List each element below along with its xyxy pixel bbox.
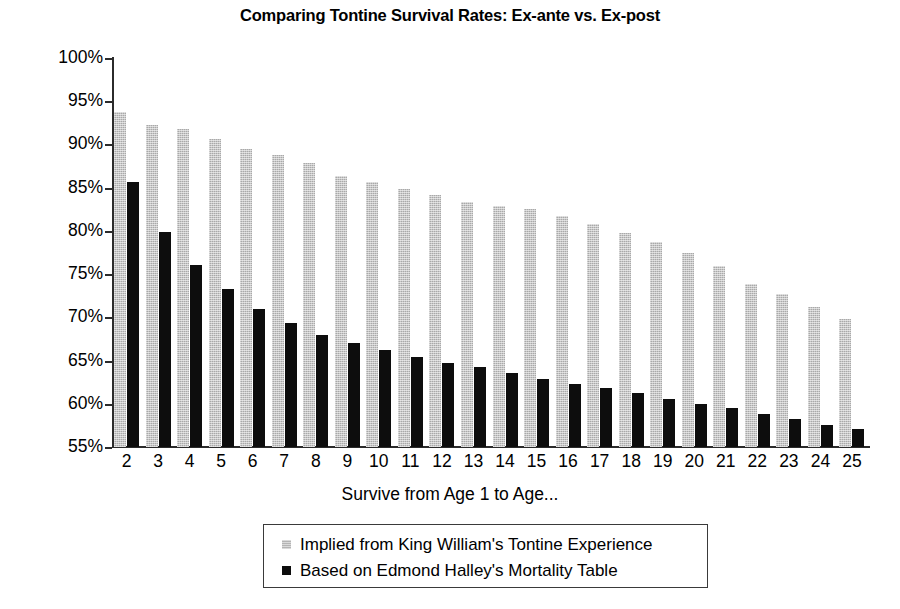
x-axis-tick-label: 17 <box>585 452 615 471</box>
bar-ex-post[interactable] <box>127 182 139 447</box>
y-axis-tick-mark <box>105 317 112 319</box>
bar-ex-post[interactable] <box>379 350 391 447</box>
bar-ex-post[interactable] <box>316 335 328 447</box>
x-axis-tick-label: 11 <box>395 452 425 471</box>
bar-ex-post[interactable] <box>789 419 801 447</box>
legend-item[interactable]: Based on Edmond Halley's Mortality Table <box>282 558 707 582</box>
bar-group <box>839 58 865 447</box>
bar-ex-post[interactable] <box>506 373 518 447</box>
bar-ex-post[interactable] <box>411 357 423 447</box>
bar-ex-ante[interactable] <box>461 202 473 448</box>
bar-ex-post[interactable] <box>285 323 297 447</box>
x-axis-tick-label: 14 <box>490 452 520 471</box>
bar-ex-ante[interactable] <box>839 319 851 447</box>
bar-ex-ante[interactable] <box>366 182 378 447</box>
y-axis-tick-mark <box>105 188 112 190</box>
bar-group <box>650 58 676 447</box>
bar-ex-post[interactable] <box>632 393 644 447</box>
bar-ex-ante[interactable] <box>114 112 126 447</box>
bar-ex-post[interactable] <box>537 379 549 447</box>
y-axis-tick-mark <box>105 231 112 233</box>
bar-ex-ante[interactable] <box>272 155 284 447</box>
bar-ex-post[interactable] <box>442 363 454 447</box>
x-axis-tick-label: 19 <box>648 452 678 471</box>
y-axis-tick-label: 80% <box>68 222 103 240</box>
y-axis-tick-label: 90% <box>68 135 103 153</box>
plot-area <box>113 58 870 447</box>
y-axis-tick-mark <box>105 101 112 103</box>
bar-ex-post[interactable] <box>821 425 833 447</box>
bar-ex-post[interactable] <box>474 367 486 447</box>
y-axis-tick-mark <box>105 361 112 363</box>
bar-group <box>303 58 329 447</box>
bar-ex-post[interactable] <box>758 414 770 447</box>
x-axis-tick-label: 16 <box>553 452 583 471</box>
legend-swatch-ex-ante-icon <box>282 540 291 549</box>
bar-ex-ante[interactable] <box>240 149 252 447</box>
bar-ex-ante[interactable] <box>429 195 441 447</box>
bar-ex-ante[interactable] <box>619 233 631 447</box>
bar-group <box>240 58 266 447</box>
bar-group <box>619 58 645 447</box>
chart-figure: Comparing Tontine Survival Rates: Ex-ant… <box>0 0 900 609</box>
bar-ex-ante[interactable] <box>398 189 410 447</box>
bar-group <box>398 58 424 447</box>
bar-group <box>493 58 519 447</box>
bar-group <box>524 58 550 447</box>
y-axis-tick-label: 55% <box>68 438 103 456</box>
bar-group <box>114 58 140 447</box>
bar-ex-post[interactable] <box>222 289 234 447</box>
legend-label: Based on Edmond Halley's Mortality Table <box>300 561 618 580</box>
bar-group <box>209 58 235 447</box>
y-axis-tick-label: 95% <box>68 92 103 110</box>
y-axis-tick-label: 70% <box>68 308 103 326</box>
bar-ex-post[interactable] <box>348 343 360 447</box>
bar-group <box>461 58 487 447</box>
bar-group <box>146 58 172 447</box>
bar-ex-ante[interactable] <box>303 163 315 447</box>
x-axis-tick-label: 12 <box>427 452 457 471</box>
bar-ex-ante[interactable] <box>146 125 158 447</box>
bar-group <box>587 58 613 447</box>
y-axis-tick-labels: 100%95%90%85%80%75%70%65%60%55% <box>0 0 103 609</box>
bar-ex-ante[interactable] <box>493 206 505 447</box>
x-axis-tick-label: 3 <box>143 452 173 471</box>
chart-title: Comparing Tontine Survival Rates: Ex-ant… <box>0 6 900 25</box>
bar-ex-ante[interactable] <box>177 129 189 447</box>
bar-group <box>713 58 739 447</box>
bar-group <box>776 58 802 447</box>
bar-ex-post[interactable] <box>852 429 864 447</box>
bar-ex-post[interactable] <box>253 309 265 447</box>
bar-ex-ante[interactable] <box>650 242 662 447</box>
bar-ex-post[interactable] <box>190 265 202 447</box>
bar-ex-ante[interactable] <box>776 294 788 447</box>
bar-ex-ante[interactable] <box>682 253 694 447</box>
x-axis-tick-label: 23 <box>774 452 804 471</box>
legend-item[interactable]: Implied from King William's Tontine Expe… <box>282 532 707 556</box>
bar-ex-post[interactable] <box>600 388 612 447</box>
x-axis-tick-label: 13 <box>458 452 488 471</box>
bar-ex-ante[interactable] <box>808 307 820 447</box>
x-axis-tick-label: 25 <box>837 452 867 471</box>
x-axis-tick-label: 9 <box>332 452 362 471</box>
bar-ex-post[interactable] <box>159 232 171 447</box>
bar-ex-ante[interactable] <box>335 176 347 447</box>
bar-group <box>335 58 361 447</box>
bar-ex-post[interactable] <box>695 404 707 447</box>
bar-ex-ante[interactable] <box>209 139 221 447</box>
bar-ex-ante[interactable] <box>556 216 568 447</box>
y-axis-tick-label: 85% <box>68 179 103 197</box>
bar-ex-ante[interactable] <box>524 209 536 447</box>
bar-ex-post[interactable] <box>569 384 581 447</box>
x-axis-tick-label: 21 <box>711 452 741 471</box>
x-axis-tick-label: 20 <box>679 452 709 471</box>
y-axis-tick-label: 75% <box>68 265 103 283</box>
bar-group <box>272 58 298 447</box>
bar-ex-post[interactable] <box>663 399 675 447</box>
bar-ex-ante[interactable] <box>587 224 599 447</box>
bar-ex-post[interactable] <box>726 408 738 447</box>
bar-group <box>808 58 834 447</box>
bar-ex-ante[interactable] <box>713 266 725 447</box>
x-axis-tick-label: 22 <box>742 452 772 471</box>
bar-ex-ante[interactable] <box>745 284 757 447</box>
